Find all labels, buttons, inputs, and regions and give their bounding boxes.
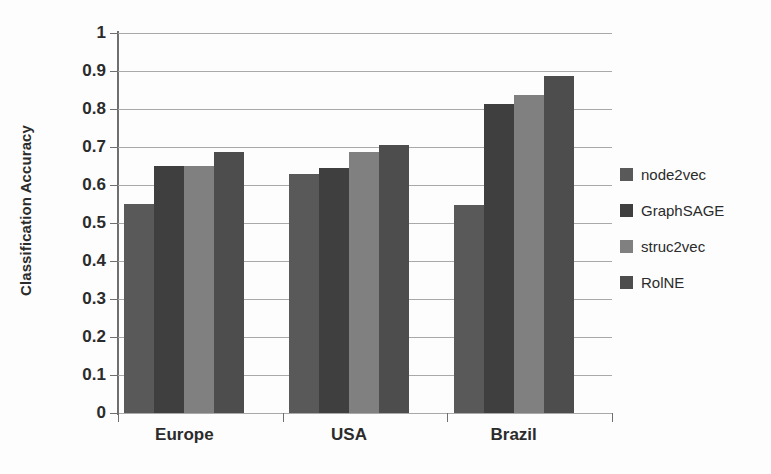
y-axis-tick — [110, 185, 118, 186]
bar-brazil-node2vec — [454, 205, 484, 413]
x-axis-label-usa: USA — [331, 425, 367, 445]
y-axis-tick-label: 0.9 — [6, 61, 106, 81]
y-axis-tick-labels: 10.90.80.70.60.50.40.30.20.10 — [0, 0, 106, 474]
bar-group-europe — [124, 33, 244, 413]
y-axis-tick — [110, 71, 118, 72]
y-axis-tick-label: 0 — [6, 403, 106, 423]
bar-usa-struc2vec — [349, 152, 379, 413]
y-axis-title: Classification Accuracy — [8, 0, 42, 420]
y-axis-tick — [110, 109, 118, 110]
y-axis-tick — [110, 261, 118, 262]
y-axis-tick — [110, 223, 118, 224]
x-axis-tick — [283, 413, 284, 422]
y-axis-tick-label: 0.4 — [6, 251, 106, 271]
y-axis-tick — [110, 413, 118, 414]
legend-item-node2vec[interactable]: node2vec — [620, 166, 724, 183]
y-axis-tick — [110, 33, 118, 34]
gridline — [118, 413, 612, 414]
bar-usa-node2vec — [289, 174, 319, 413]
y-axis-title-text: Classification Accuracy — [17, 125, 34, 296]
bar-brazil-graphsage — [484, 104, 514, 413]
legend-item-struc2vec[interactable]: struc2vec — [620, 238, 724, 255]
legend-item-rolne[interactable]: RolNE — [620, 274, 724, 291]
y-axis-tick-label: 0.7 — [6, 137, 106, 157]
y-axis-tick-label: 0.8 — [6, 99, 106, 119]
legend-label: node2vec — [641, 166, 706, 183]
y-axis-tick — [110, 337, 118, 338]
legend: node2vecGraphSAGEstruc2vecRolNE — [620, 166, 724, 291]
legend-item-graphsage[interactable]: GraphSAGE — [620, 202, 724, 219]
bar-europe-graphsage — [154, 166, 184, 413]
legend-label: GraphSAGE — [641, 202, 724, 219]
legend-swatch-icon — [620, 240, 633, 253]
bar-chart: Classification Accuracy 10.90.80.70.60.5… — [0, 0, 771, 474]
y-axis-tick — [110, 375, 118, 376]
bar-group-brazil — [454, 33, 574, 413]
bar-europe-rolne — [214, 152, 244, 413]
bar-usa-rolne — [379, 145, 409, 413]
bar-brazil-struc2vec — [514, 95, 544, 413]
bar-europe-struc2vec — [184, 166, 214, 413]
bar-usa-graphsage — [319, 168, 349, 413]
y-axis-tick-label: 1 — [6, 23, 106, 43]
bar-brazil-rolne — [544, 76, 574, 413]
plot-area — [118, 33, 612, 413]
legend-swatch-icon — [620, 204, 633, 217]
legend-label: struc2vec — [641, 238, 705, 255]
y-axis-tick-label: 0.2 — [6, 327, 106, 347]
x-axis-label-brazil: Brazil — [491, 425, 537, 445]
y-axis-tick-label: 0.6 — [6, 175, 106, 195]
legend-label: RolNE — [641, 274, 684, 291]
bar-europe-node2vec — [124, 204, 154, 413]
legend-swatch-icon — [620, 168, 633, 181]
y-axis-tick-label: 0.3 — [6, 289, 106, 309]
y-axis-tick-label: 0.1 — [6, 365, 106, 385]
x-axis-tick — [118, 413, 119, 422]
y-axis-tick — [110, 147, 118, 148]
legend-swatch-icon — [620, 276, 633, 289]
x-axis-label-europe: Europe — [155, 425, 214, 445]
x-axis-tick — [447, 413, 448, 422]
x-axis-tick — [612, 413, 613, 422]
y-axis-tick-label: 0.5 — [6, 213, 106, 233]
y-axis-tick — [110, 299, 118, 300]
bar-group-usa — [289, 33, 409, 413]
